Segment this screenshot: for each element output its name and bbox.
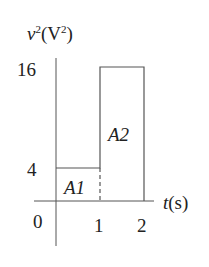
x-tick-2: 2 bbox=[137, 215, 147, 236]
x-tick-0: 0 bbox=[33, 211, 43, 232]
y-axis-label: v2(V2) bbox=[27, 23, 73, 45]
x-axis-label: t(s) bbox=[163, 192, 188, 214]
area-label-a2: A2 bbox=[106, 124, 130, 145]
area-label-a1: A1 bbox=[62, 177, 85, 198]
y-tick-16: 16 bbox=[17, 59, 36, 80]
x-tick-1: 1 bbox=[94, 215, 104, 236]
chart: v2(V2) 16 4 0 1 2 t(s) A1 A2 bbox=[0, 0, 209, 267]
y-tick-4: 4 bbox=[27, 159, 37, 180]
